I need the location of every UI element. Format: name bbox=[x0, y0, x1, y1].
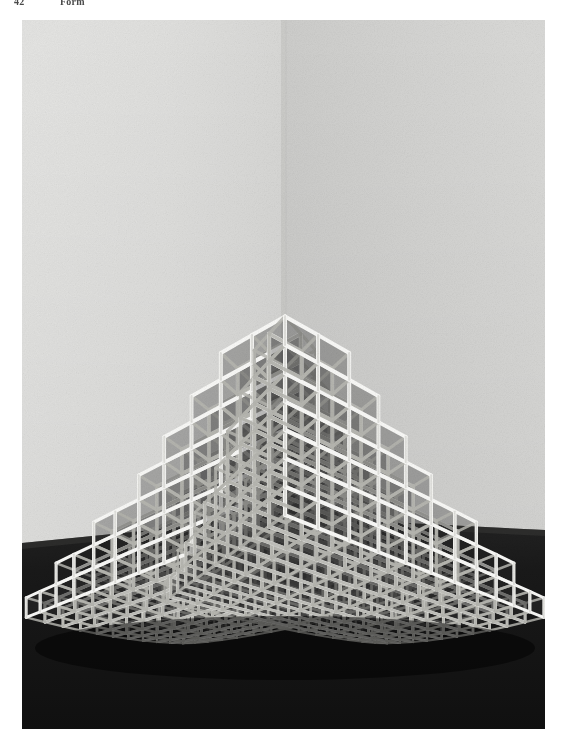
book-page: 42 Form bbox=[0, 0, 568, 749]
section-title: Form bbox=[60, 0, 85, 7]
sculpture-photograph bbox=[22, 20, 545, 729]
contact-shadow bbox=[35, 616, 535, 680]
photograph-plate bbox=[22, 20, 545, 729]
page-number: 42 bbox=[14, 0, 24, 7]
running-header: 42 Form bbox=[0, 0, 568, 10]
